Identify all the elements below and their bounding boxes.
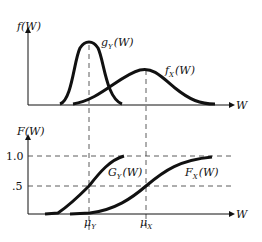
top-ylabel: f(W)	[16, 20, 41, 33]
chart-figure: f(W) W gY(W) fX(W) F(W) W 1.0 .5 GY(W) F…	[0, 0, 262, 242]
svg-text:μY: μY	[84, 216, 97, 231]
svg-text:W: W	[236, 99, 249, 112]
svg-text:.5: .5	[12, 180, 23, 193]
svg-text:f(W): f(W)	[16, 20, 41, 33]
svg-text:W: W	[236, 208, 249, 221]
svg-text:FX(W): FX(W)	[184, 166, 219, 181]
svg-text:1.0: 1.0	[6, 150, 24, 163]
G-y-curve	[45, 156, 124, 214]
svg-text:gY(W): gY(W)	[101, 36, 134, 51]
svg-text:F(W): F(W)	[16, 125, 45, 138]
svg-text:fX(W): fX(W)	[164, 64, 195, 79]
g-y-curve	[60, 42, 122, 104]
svg-text:μX: μX	[140, 216, 153, 231]
svg-text:GY(W): GY(W)	[108, 166, 142, 181]
